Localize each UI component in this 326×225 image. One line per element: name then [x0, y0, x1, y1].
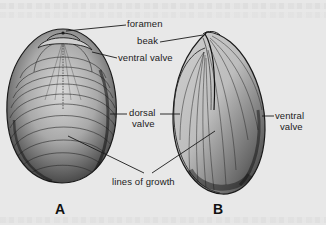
label-ventral-b-line1: ventral: [275, 111, 304, 121]
label-ventral-valve-a: ventral valve: [118, 53, 173, 63]
label-foramen: foramen: [127, 19, 163, 29]
label-ventral-b-line2: valve: [280, 122, 303, 132]
brachiopod-diagram: foramen ventral valve beak dorsal valve …: [0, 0, 326, 225]
leader-beak: [160, 35, 203, 42]
label-dorsal-line2: valve: [132, 119, 155, 129]
panel-letter-a: A: [55, 201, 65, 217]
label-dorsal-line1: dorsal: [129, 108, 155, 118]
panel-letter-b: B: [213, 201, 223, 217]
label-lines-of-growth: lines of growth: [112, 177, 175, 187]
label-beak: beak: [137, 36, 158, 46]
shell-b: [173, 31, 265, 194]
shell-a: [7, 29, 116, 183]
leader-foramen: [66, 25, 126, 31]
